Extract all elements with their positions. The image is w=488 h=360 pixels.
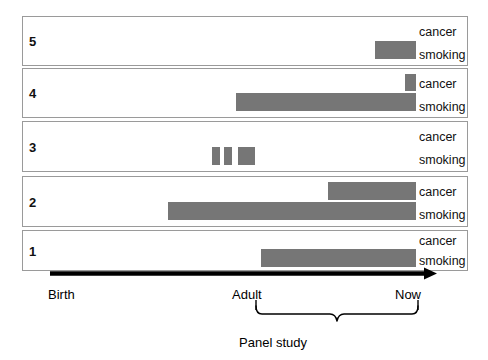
panel-study-label: Panel study — [0, 336, 488, 349]
series-label-cancer-5: cancer — [419, 26, 457, 39]
case-panel-1: 1 cancer smoking — [22, 230, 468, 271]
case-track-2 — [23, 177, 467, 226]
smoking-bar-2-0 — [168, 202, 416, 220]
cancer-bar-2-0 — [328, 182, 416, 200]
series-label-cancer-2: cancer — [419, 186, 457, 199]
panel-study-figure: 5 cancer smoking 4 cancer smoking 3 canc… — [0, 0, 488, 360]
series-label-cancer-3: cancer — [419, 131, 457, 144]
case-panel-5: 5 cancer smoking — [22, 16, 468, 66]
smoking-bar-1-0 — [261, 249, 416, 267]
smoking-bar-5-0 — [375, 41, 416, 59]
panel-study-brace-icon — [256, 306, 418, 321]
axis-label-birth: Birth — [48, 288, 75, 301]
case-panel-3: 3 cancer smoking — [22, 121, 468, 172]
series-label-cancer-1: cancer — [419, 235, 457, 248]
case-track-1 — [23, 231, 467, 270]
smoking-bar-4-0 — [236, 93, 416, 111]
case-panel-2: 2 cancer smoking — [22, 176, 468, 227]
axis-label-adult: Adult — [232, 288, 262, 301]
series-label-cancer-4: cancer — [419, 78, 457, 91]
series-label-smoking-4: smoking — [419, 101, 466, 114]
case-panel-4: 4 cancer smoking — [22, 68, 468, 118]
smoking-bar-3-2 — [238, 147, 255, 165]
axis-label-now: Now — [395, 288, 421, 301]
series-label-smoking-3: smoking — [419, 154, 466, 167]
case-track-4 — [23, 69, 467, 117]
case-track-5 — [23, 17, 467, 65]
series-label-smoking-1: smoking — [419, 255, 466, 268]
smoking-bar-3-1 — [224, 147, 232, 165]
panel-study-label-text: Panel study — [239, 336, 307, 349]
case-track-3 — [23, 122, 467, 171]
series-label-smoking-2: smoking — [419, 209, 466, 222]
series-label-smoking-5: smoking — [419, 49, 466, 62]
cancer-bar-4-0 — [405, 74, 416, 91]
smoking-bar-3-0 — [212, 147, 220, 165]
